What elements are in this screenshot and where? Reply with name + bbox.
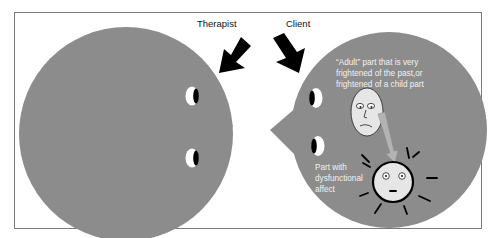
- adult-part-face: [351, 88, 383, 136]
- client-label: Client: [286, 18, 311, 29]
- svg-text:affect: affect: [315, 185, 336, 194]
- svg-text:frightened of the past,or: frightened of the past,or: [336, 69, 423, 78]
- svg-text:Part with: Part with: [315, 163, 347, 172]
- svg-text:frightened of a child part: frightened of a child part: [336, 80, 425, 89]
- therapist-eye-bottom: [186, 149, 199, 168]
- client-eye-top: [309, 88, 322, 108]
- svg-text:“Adult” part that is very: “Adult” part that is very: [336, 58, 419, 67]
- client-eye-bottom: [311, 136, 324, 156]
- therapist-eye-top: [186, 87, 199, 106]
- adult-part-annotation: “Adult” part that is very frightened of …: [336, 58, 425, 89]
- therapist-head: [19, 27, 233, 238]
- svg-text:dysfunctional: dysfunctional: [315, 174, 363, 183]
- diagram-canvas: Therapist Client “Adult” part that is ve…: [0, 0, 500, 238]
- therapist-label: Therapist: [197, 18, 237, 29]
